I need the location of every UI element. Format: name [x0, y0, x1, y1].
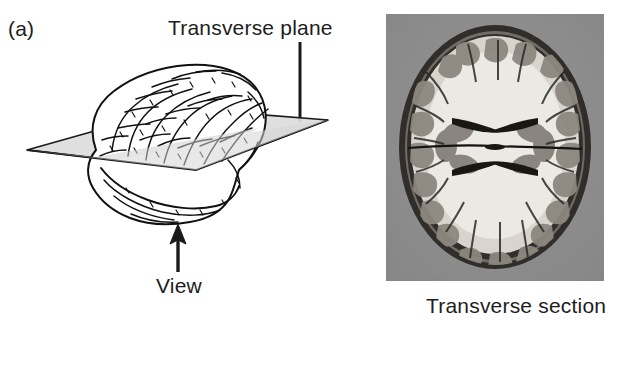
transverse-section-photo [386, 14, 604, 281]
photo-grain-overlay [386, 14, 604, 281]
anatomy-figure-panel-a: (a) [0, 0, 626, 384]
label-transverse-plane: Transverse plane [168, 16, 333, 40]
arrow-up-icon [170, 224, 186, 272]
label-view: View [156, 274, 202, 298]
brain-plane-diagram [0, 0, 350, 300]
label-transverse-section: Transverse section [426, 294, 606, 318]
